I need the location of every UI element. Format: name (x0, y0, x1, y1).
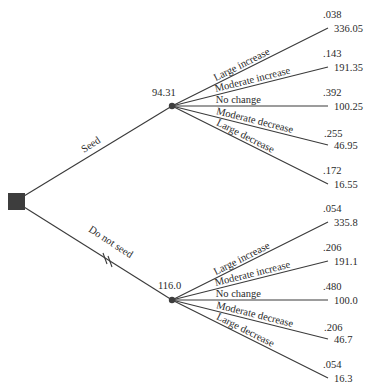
expected-value-seed: 94.31 (152, 87, 176, 98)
outcome-value-do-not-seed-moderate-increase: 191.1 (334, 256, 358, 267)
expected-value-do-not-seed: 116.0 (158, 280, 181, 291)
outcome-probability-seed-large-increase: .038 (323, 9, 341, 20)
outcome-value-do-not-seed-large-increase: 335.8 (334, 217, 358, 228)
outcome-probability-do-not-seed-moderate-increase: .206 (323, 242, 341, 253)
outcome-value-seed-moderate-increase: 191.35 (334, 62, 363, 73)
outcome-branches: Large increase.038336.05Moderate increas… (172, 9, 363, 384)
outcome-label-do-not-seed-no-change: No change (216, 288, 262, 299)
outcome-value-seed-large-increase: 336.05 (334, 23, 363, 34)
outcome-probability-do-not-seed-large-increase: .054 (323, 203, 342, 214)
outcome-label-seed-no-change: No change (216, 94, 262, 105)
outcome-probability-do-not-seed-moderate-decrease: .206 (324, 322, 342, 333)
outcome-value-do-not-seed-moderate-decrease: 46.7 (334, 334, 352, 345)
outcome-probability-seed-large-decrease: .172 (323, 165, 341, 176)
branch-seed (24, 106, 172, 196)
chance-node-seed (169, 103, 175, 109)
outcome-probability-seed-moderate-decrease: .255 (324, 128, 342, 139)
outcome-value-seed-no-change: 100.25 (334, 101, 363, 112)
branch-label-seed: Seed (79, 134, 103, 155)
outcome-probability-do-not-seed-large-decrease: .054 (323, 359, 342, 370)
decision-node (8, 193, 25, 210)
branch-do-not-seed (24, 207, 172, 300)
branch-label-do-not-seed: Do not seed (87, 223, 136, 260)
decision-tree-diagram: Seed Do not seed 94.31 116.0 Large incre… (0, 0, 371, 390)
outcome-value-do-not-seed-large-decrease: 16.3 (334, 373, 352, 384)
outcome-probability-seed-no-change: .392 (323, 87, 341, 98)
outcome-probability-seed-moderate-increase: .143 (323, 48, 341, 59)
chance-node-do-not-seed (169, 297, 175, 303)
outcome-value-seed-large-decrease: 16.55 (334, 179, 358, 190)
outcome-value-do-not-seed-no-change: 100.0 (334, 295, 358, 306)
outcome-probability-do-not-seed-no-change: .480 (323, 281, 341, 292)
outcome-value-seed-moderate-decrease: 46.95 (334, 140, 358, 151)
